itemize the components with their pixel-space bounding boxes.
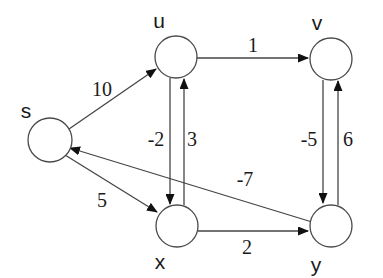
edge-s-x <box>65 155 157 212</box>
node-u[interactable] <box>155 36 197 78</box>
edge-weight-y-v: 6 <box>343 128 353 150</box>
edge-weight-u-x: -2 <box>148 128 165 150</box>
node-label-u: u <box>153 9 165 32</box>
node-v[interactable] <box>310 38 352 80</box>
graph-canvas: s u v x y 10 1 -2 3 -5 6 5 2 -7 <box>0 0 383 278</box>
edge-weight-y-s: -7 <box>237 168 254 190</box>
node-x[interactable] <box>156 205 198 247</box>
node-label-v: v <box>312 11 323 34</box>
edge-weight-s-x: 5 <box>97 189 107 211</box>
node-label-y: y <box>311 253 322 276</box>
edge-weight-x-y: 2 <box>242 236 252 258</box>
node-label-s: s <box>21 99 32 122</box>
node-label-x: x <box>155 250 166 273</box>
node-y[interactable] <box>310 205 352 247</box>
edge-weight-s-u: 10 <box>92 78 112 100</box>
graph-figure: s u v x y 10 1 -2 3 -5 6 5 2 -7 <box>0 0 383 278</box>
edge-weight-u-v: 1 <box>248 34 258 56</box>
edge-weight-v-y: -5 <box>301 128 318 150</box>
edge-weight-x-u: 3 <box>187 128 197 150</box>
edge-s-u <box>69 69 156 129</box>
node-s[interactable] <box>28 118 72 162</box>
